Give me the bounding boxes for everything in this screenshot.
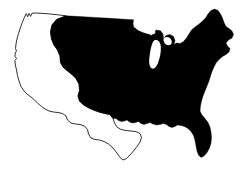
map-figure: Map of the contiguous United States Silh… xyxy=(0,0,249,170)
us-map-svg xyxy=(0,0,249,170)
